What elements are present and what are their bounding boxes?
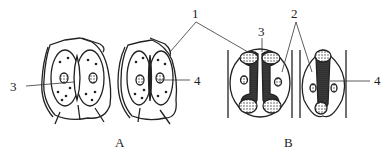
panel-b-stoma-closed: [300, 50, 346, 118]
panel-a-stoma-open: [42, 38, 111, 124]
callout-1: 1: [192, 7, 199, 20]
panel-a-stoma-closed: [118, 38, 177, 124]
callout-3-panel-b: 3: [258, 25, 265, 38]
callout-4-panel-a: 4: [194, 74, 201, 87]
callout-2: 2: [291, 7, 298, 20]
callout-3-panel-a: 3: [10, 80, 17, 93]
panel-b-stoma-open: [228, 49, 292, 118]
callout-4-panel-b: 4: [374, 74, 381, 87]
stomata-diagram: [0, 0, 386, 153]
panel-label-a: A: [115, 136, 124, 149]
panel-label-b: B: [284, 136, 293, 149]
